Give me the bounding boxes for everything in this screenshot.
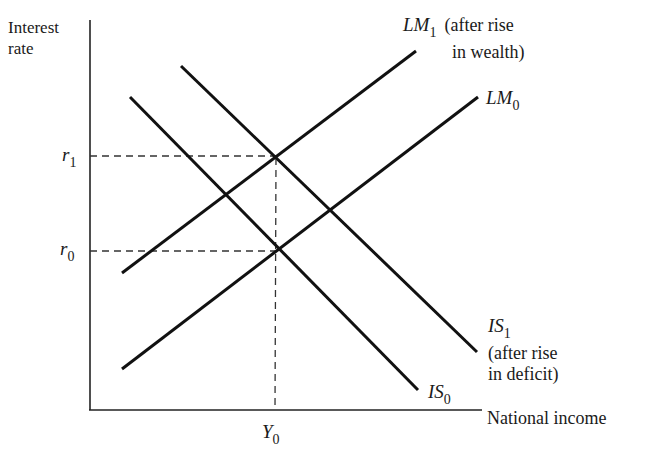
y-axis-label: Interest rate <box>8 18 63 58</box>
x-axis-label: National income <box>487 408 606 428</box>
is1-label: IS1 <box>487 315 511 341</box>
is1-curve <box>181 66 477 352</box>
is0-label: IS0 <box>427 381 451 407</box>
lm1-note: in wealth) <box>452 42 524 63</box>
r0-tick-label: r0 <box>60 238 74 264</box>
lm1-label: LM1(after rise <box>402 14 514 40</box>
lm0-label: LM0 <box>485 87 519 113</box>
y0-guide-line <box>275 158 276 410</box>
r1-tick-label: r1 <box>62 144 76 170</box>
is1-note: (after rise in deficit) <box>488 343 562 385</box>
is0-curve <box>130 97 418 390</box>
y0-tick-label: Y0 <box>262 421 280 447</box>
is-lm-diagram: Interest rate r1 r0 Y0 National income L… <box>0 0 664 463</box>
